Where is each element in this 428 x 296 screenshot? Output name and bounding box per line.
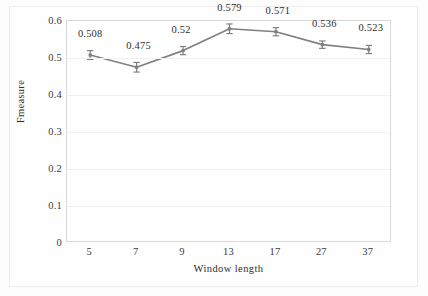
- y-axis-tick-label: 0: [22, 237, 62, 248]
- data-point-label: 0.579: [217, 2, 242, 13]
- data-point-label: 0.475: [126, 40, 151, 51]
- gridline: [67, 95, 390, 96]
- gridline: [67, 206, 390, 207]
- x-axis-tick-label: 17: [255, 246, 295, 257]
- x-axis-title: Window length: [66, 263, 391, 274]
- data-point-label: 0.536: [312, 18, 337, 29]
- y-axis-tick-label: 0.1: [22, 200, 62, 211]
- chart-figure: 00.10.20.30.40.50.6 Fmeasure 0.5080.4750…: [0, 0, 428, 296]
- y-axis-tick-label: 0.6: [22, 15, 62, 26]
- gridline: [67, 169, 390, 170]
- x-axis-tick-label: 7: [116, 246, 156, 257]
- y-axis-tick-label: 0.5: [22, 52, 62, 63]
- y-axis-tick-label: 0.2: [22, 163, 62, 174]
- data-point-label: 0.508: [78, 28, 103, 39]
- x-axis-tick-label: 37: [348, 246, 388, 257]
- x-axis-tick-label: 27: [301, 246, 341, 257]
- y-axis-tick-label: 0.3: [22, 126, 62, 137]
- x-axis-tick-label: 9: [162, 246, 202, 257]
- data-point-label: 0.523: [358, 22, 383, 33]
- x-axis-tick-label: 13: [209, 246, 249, 257]
- data-point-label: 0.571: [266, 5, 291, 16]
- gridline: [67, 58, 390, 59]
- gridline: [67, 132, 390, 133]
- x-axis-tick-labels: 57913172737: [66, 246, 391, 262]
- x-axis-tick-label: 5: [69, 246, 109, 257]
- y-axis-tick-label: 0.4: [22, 89, 62, 100]
- data-point-label: 0.52: [171, 24, 190, 35]
- plot-area: 0.5080.4750.520.5790.5710.5360.523: [66, 20, 391, 242]
- y-axis-title: Fmeasure: [15, 54, 26, 150]
